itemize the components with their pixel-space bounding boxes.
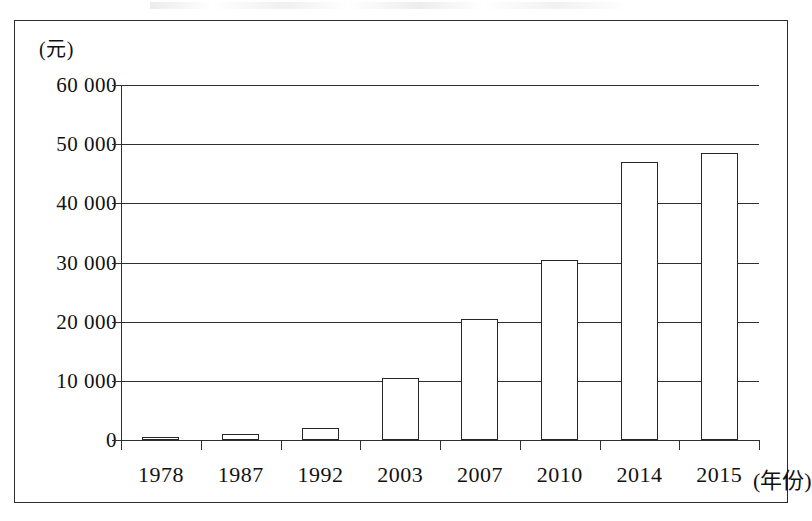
x-tick-mark bbox=[121, 440, 122, 450]
x-tick-label: 2007 bbox=[457, 462, 503, 488]
gridline bbox=[121, 263, 759, 264]
bar bbox=[461, 319, 498, 440]
y-axis-line bbox=[121, 85, 122, 440]
bar bbox=[222, 434, 259, 440]
gridline bbox=[121, 322, 759, 323]
x-tick-mark bbox=[281, 440, 282, 450]
gridline bbox=[121, 381, 759, 382]
x-axis-title: (年份) bbox=[753, 462, 812, 494]
y-tick-label: 10 000 bbox=[56, 368, 117, 393]
gridline bbox=[121, 144, 759, 145]
bar bbox=[302, 428, 339, 440]
x-tick-label: 1987 bbox=[218, 462, 264, 488]
gridline bbox=[121, 203, 759, 204]
x-tick-mark bbox=[520, 440, 521, 450]
y-tick-label: 30 000 bbox=[56, 250, 117, 275]
x-tick-label: 2010 bbox=[537, 462, 583, 488]
x-tick-label: 2015 bbox=[696, 462, 742, 488]
bar bbox=[701, 153, 738, 440]
x-tick-label: 2003 bbox=[377, 462, 423, 488]
figure-frame: (元) 010 00020 00030 00040 00050 00060 00… bbox=[14, 20, 788, 503]
x-tick-mark bbox=[600, 440, 601, 450]
bar bbox=[382, 378, 419, 440]
y-tick-label: 50 000 bbox=[56, 132, 117, 157]
x-tick-mark bbox=[759, 440, 760, 450]
gridline bbox=[121, 85, 759, 86]
y-axis-tick-labels: 010 00020 00030 00040 00050 00060 000 bbox=[15, 21, 117, 504]
scan-artifact-strip bbox=[150, 2, 670, 9]
x-tick-mark bbox=[360, 440, 361, 450]
bar-chart-plot-area: (元) 010 00020 00030 00040 00050 00060 00… bbox=[15, 21, 789, 504]
x-tick-label: 2014 bbox=[616, 462, 662, 488]
bar bbox=[541, 260, 578, 440]
x-tick-mark bbox=[201, 440, 202, 450]
bar bbox=[621, 162, 658, 440]
y-tick-label: 60 000 bbox=[56, 73, 117, 98]
x-tick-mark bbox=[440, 440, 441, 450]
y-tick-label: 40 000 bbox=[56, 191, 117, 216]
x-tick-label: 1978 bbox=[138, 462, 184, 488]
x-tick-mark bbox=[679, 440, 680, 450]
y-tick-label: 20 000 bbox=[56, 309, 117, 334]
bar bbox=[142, 437, 179, 440]
x-tick-label: 1992 bbox=[297, 462, 343, 488]
